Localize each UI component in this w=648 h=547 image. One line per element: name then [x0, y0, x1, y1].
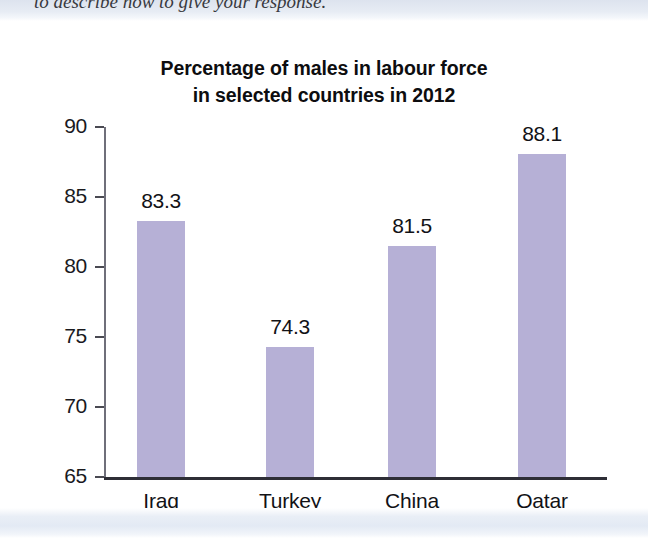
- bar-iraq: [137, 221, 185, 477]
- chart-page: to describe how to give your response. P…: [0, 0, 648, 547]
- page-bottom-band: [0, 508, 648, 538]
- y-axis-line: [104, 127, 106, 479]
- y-axis-tick-label: 75: [27, 324, 87, 348]
- bar-chart-plot-area: 65707580859083.3Iraq74.3Turkey81.5China8…: [0, 0, 648, 547]
- y-axis-tick-label: 70: [27, 394, 87, 418]
- y-axis-tick-mark: [95, 266, 104, 268]
- y-axis-tick-label: 80: [27, 254, 87, 278]
- bar-value-label-iraq: 83.3: [116, 189, 206, 213]
- bar-value-label-turkey: 74.3: [245, 315, 335, 339]
- y-axis-tick-label: 90: [27, 114, 87, 138]
- y-axis-tick-mark: [95, 126, 104, 128]
- y-axis-tick-label: 65: [27, 464, 87, 488]
- y-axis-tick-label: 85: [27, 184, 87, 208]
- bar-value-label-qatar: 88.1: [497, 122, 587, 146]
- x-axis-line: [104, 477, 607, 480]
- y-axis-tick-mark: [95, 196, 104, 198]
- bar-china: [388, 246, 436, 477]
- bar-qatar: [518, 154, 566, 477]
- y-axis-tick-mark: [95, 406, 104, 408]
- y-axis-tick-mark: [95, 336, 104, 338]
- bar-turkey: [266, 347, 314, 477]
- bar-value-label-china: 81.5: [367, 214, 457, 238]
- y-axis-tick-mark: [95, 476, 104, 478]
